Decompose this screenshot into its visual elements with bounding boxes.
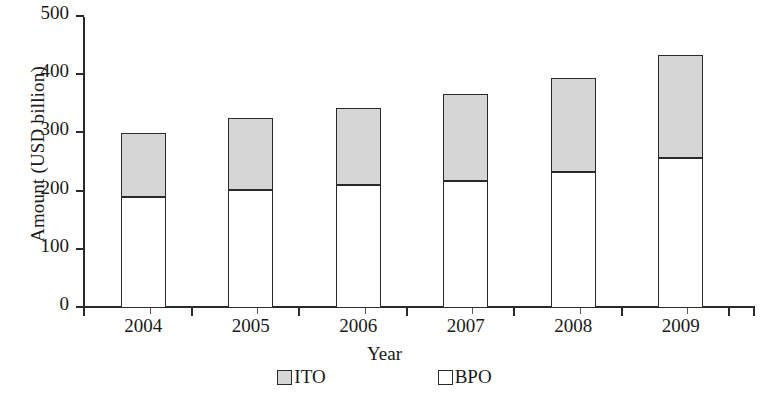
x-tick-minor-2	[365, 308, 366, 314]
bar-group-2004[interactable]	[121, 17, 166, 308]
bar-segment-bpo-2004[interactable]	[121, 197, 166, 308]
y-tick-label: 200	[41, 178, 70, 197]
x-category-label-2006: 2006	[318, 315, 398, 337]
y-tick-300: 300	[76, 131, 84, 133]
x-tick-minor-0	[150, 308, 151, 314]
y-tick-label: 400	[41, 61, 70, 80]
bar-segment-ito-2005[interactable]	[228, 118, 273, 191]
x-tick-boundary-1	[191, 307, 193, 316]
bar-group-2006[interactable]	[336, 17, 381, 308]
y-tick-500: 500	[76, 15, 84, 17]
bar-segment-ito-2009[interactable]	[658, 55, 703, 159]
y-tick-label: 500	[41, 3, 70, 22]
y-tick-100: 100	[76, 248, 84, 250]
x-category-label-2007: 2007	[426, 315, 506, 337]
y-tick-label: 100	[41, 236, 70, 255]
x-tick-axis-end	[753, 307, 755, 316]
y-tick-label: 300	[41, 119, 70, 138]
bar-segment-ito-2004[interactable]	[121, 133, 166, 197]
bar-segment-ito-2007[interactable]	[443, 94, 488, 181]
x-tick-boundary-6	[728, 307, 730, 316]
x-tick-boundary-4	[513, 307, 515, 316]
y-tick-label: 0	[60, 294, 70, 313]
x-tick-minor-5	[687, 308, 688, 314]
x-tick-minor-3	[472, 308, 473, 314]
stacked-bar-chart: Amount (USD billion) 0100200300400500 20…	[0, 0, 769, 403]
bar-group-2008[interactable]	[551, 17, 596, 308]
bar-segment-ito-2008[interactable]	[551, 78, 596, 172]
x-tick-minor-4	[580, 308, 581, 314]
bar-segment-bpo-2009[interactable]	[658, 158, 703, 308]
legend-swatch-ito-icon	[277, 370, 292, 385]
bar-group-2009[interactable]	[658, 17, 703, 308]
x-axis-title: Year	[0, 343, 769, 365]
x-tick-boundary-0	[83, 307, 85, 316]
chart-legend: ITOBPO	[0, 366, 769, 388]
x-tick-boundary-3	[406, 307, 408, 316]
y-tick-400: 400	[76, 73, 84, 75]
plot-area: 0100200300400500	[83, 17, 755, 308]
bar-group-2005[interactable]	[228, 17, 273, 308]
x-category-label-2004: 2004	[103, 315, 183, 337]
bar-group-2007[interactable]	[443, 17, 488, 308]
bar-segment-bpo-2008[interactable]	[551, 172, 596, 308]
legend-swatch-bpo-icon	[438, 370, 453, 385]
bar-segment-ito-2006[interactable]	[336, 108, 381, 185]
legend-item-ito[interactable]: ITO	[277, 366, 325, 388]
x-tick-minor-1	[257, 308, 258, 314]
legend-label: BPO	[455, 366, 492, 388]
x-category-label-2008: 2008	[533, 315, 613, 337]
x-tick-boundary-5	[621, 307, 623, 316]
y-tick-200: 200	[76, 190, 84, 192]
legend-item-bpo[interactable]: BPO	[438, 366, 492, 388]
x-tick-boundary-2	[298, 307, 300, 316]
bar-segment-bpo-2007[interactable]	[443, 181, 488, 308]
bar-segment-bpo-2006[interactable]	[336, 185, 381, 308]
y-axis-line	[83, 17, 85, 309]
x-category-label-2005: 2005	[211, 315, 291, 337]
x-axis-line	[83, 306, 755, 308]
bar-segment-bpo-2005[interactable]	[228, 190, 273, 308]
legend-label: ITO	[294, 366, 325, 388]
x-category-label-2009: 2009	[641, 315, 721, 337]
